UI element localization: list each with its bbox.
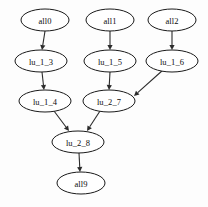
- graph-node-lu_1_6[interactable]: lu_1_6: [146, 50, 198, 72]
- node-label-all0: all0: [38, 16, 51, 26]
- arrowhead-all1-to-lu_1_5: [107, 45, 112, 50]
- arrowhead-lu_1_3-to-lu_1_4: [41, 85, 46, 90]
- edge-lu_2_7-to-lu_2_8: [90, 111, 100, 127]
- nodes-layer: all0all1all2lu_1_3lu_1_5lu_1_6lu_1_4lu_2…: [15, 9, 198, 194]
- edge-lu_1_3-to-lu_1_4: [42, 72, 43, 85]
- node-label-lu_1_5: lu_1_5: [98, 57, 122, 67]
- arrowhead-lu_1_4-to-lu_2_8: [64, 125, 69, 131]
- edge-lu_2_8-to-all9: [79, 153, 80, 167]
- graph-node-lu_1_5[interactable]: lu_1_5: [84, 50, 136, 72]
- arrowhead-all0-to-lu_1_3: [40, 45, 45, 50]
- graph-node-all9[interactable]: all9: [57, 172, 105, 194]
- node-label-lu_1_3: lu_1_3: [29, 57, 53, 67]
- node-label-all9: all9: [74, 179, 87, 189]
- graph-node-lu_2_7[interactable]: lu_2_7: [83, 90, 135, 112]
- graph-node-lu_2_8[interactable]: lu_2_8: [52, 131, 104, 153]
- graph-node-all0[interactable]: all0: [21, 9, 69, 31]
- graph-diagram: all0all1all2lu_1_3lu_1_5lu_1_6lu_1_4lu_2…: [0, 0, 208, 207]
- graph-node-all2[interactable]: all2: [148, 9, 196, 31]
- graph-canvas: all0all1all2lu_1_3lu_1_5lu_1_6lu_1_4lu_2…: [0, 0, 208, 207]
- node-label-lu_1_6: lu_1_6: [160, 57, 184, 67]
- node-label-lu_2_8: lu_2_8: [66, 138, 90, 148]
- arrowhead-all2-to-lu_1_6: [169, 45, 174, 50]
- node-label-lu_2_7: lu_2_7: [97, 97, 121, 107]
- graph-node-all1[interactable]: all1: [86, 9, 134, 31]
- edge-lu_1_6-to-lu_2_7: [138, 70, 163, 93]
- arrowhead-lu_2_8-to-all9: [77, 167, 82, 172]
- graph-node-lu_1_3[interactable]: lu_1_3: [15, 50, 67, 72]
- node-label-all1: all1: [103, 16, 116, 26]
- node-label-all2: all2: [165, 16, 178, 26]
- arrowhead-lu_1_5-to-lu_2_7: [107, 85, 112, 90]
- graph-node-lu_1_4[interactable]: lu_1_4: [19, 90, 71, 112]
- edge-all0-to-lu_1_3: [43, 31, 45, 45]
- edge-lu_1_4-to-lu_2_8: [54, 111, 66, 127]
- node-label-lu_1_4: lu_1_4: [33, 97, 58, 107]
- edge-lu_1_5-to-lu_2_7: [109, 72, 110, 85]
